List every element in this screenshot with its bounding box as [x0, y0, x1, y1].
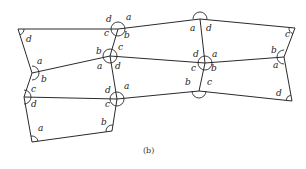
angle-label-b: b — [96, 46, 102, 56]
angle-label-b: b — [41, 74, 47, 84]
edge — [112, 99, 117, 131]
edge — [110, 29, 118, 56]
angle-label-d: d — [26, 34, 32, 44]
angle-label-a: a — [212, 49, 217, 59]
angle-label-a: a — [97, 61, 102, 71]
angle-label-b: b — [271, 45, 277, 55]
angle-label-b: b — [185, 77, 191, 87]
edge — [117, 91, 199, 99]
angle-label-a: a — [37, 56, 42, 66]
angle-label-b: b — [124, 30, 130, 40]
edge — [110, 56, 205, 63]
corner-angle-arc — [20, 29, 24, 35]
diagram-edges — [18, 19, 295, 142]
angle-label-a: a — [190, 23, 195, 33]
edge — [32, 131, 112, 142]
angle-label-a: a — [124, 81, 129, 91]
angle-label-b: b — [101, 117, 107, 127]
angle-label-c: c — [191, 63, 196, 73]
semicircle-angle-marker — [192, 91, 206, 98]
angle-label-b: b — [211, 63, 217, 73]
angle-label-d: d — [193, 49, 199, 59]
edge — [24, 97, 117, 99]
angle-label-d: d — [106, 14, 112, 24]
angle-label-a: a — [126, 12, 131, 22]
angle-label-c: c — [207, 77, 212, 87]
angle-label-a: a — [38, 123, 43, 133]
angle-label-d: d — [105, 85, 111, 95]
angle-label-d: d — [31, 99, 37, 109]
angle-labels: ddacbadcabbcaddacbbacddacbcdab — [26, 12, 290, 133]
figure-caption: (b) — [143, 146, 154, 155]
edge — [284, 57, 292, 101]
angle-label-c: c — [104, 28, 109, 38]
angle-label-c: c — [31, 84, 36, 94]
angle-label-d: d — [115, 61, 121, 71]
corner-angle-arc — [286, 95, 291, 100]
angle-label-c: c — [285, 29, 290, 39]
angle-markers — [20, 12, 293, 141]
angle-label-d: d — [206, 23, 212, 33]
semicircle-angle-marker — [193, 12, 207, 19]
angle-label-d: d — [276, 88, 282, 98]
angle-label-a: a — [273, 60, 278, 70]
angle-label-c: c — [105, 99, 110, 109]
quadrilateral-tiling-diagram: ddacbadcabbcaddacbbacddacbcdab (b) — [0, 0, 306, 169]
angle-label-c: c — [118, 42, 123, 52]
edge — [200, 19, 295, 28]
